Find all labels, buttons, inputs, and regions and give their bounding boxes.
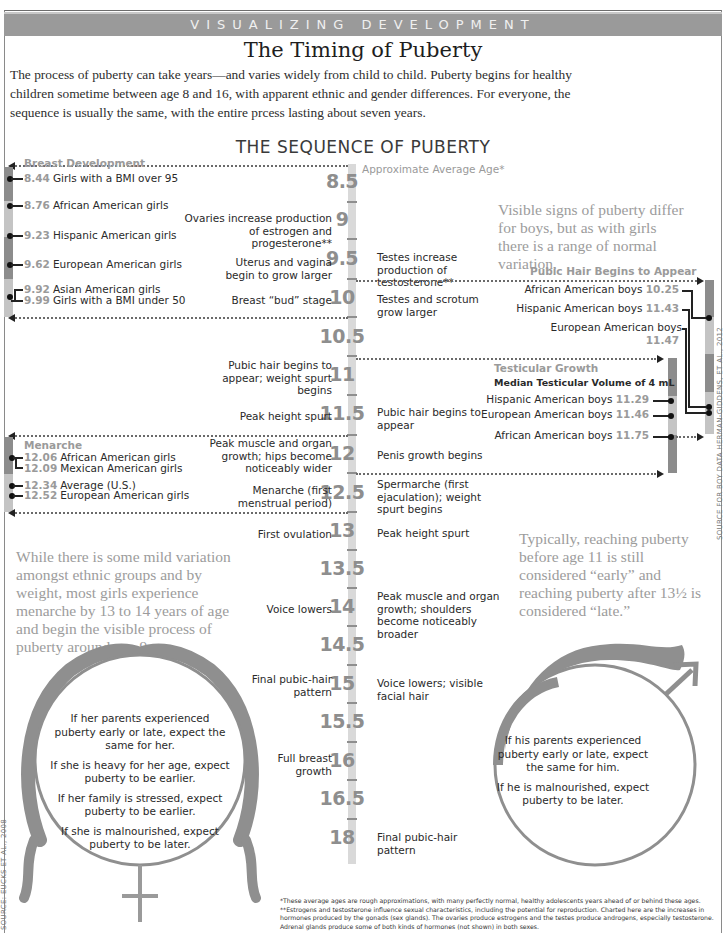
connector [11, 235, 23, 237]
boy-event-height-spurt: Peak height spurt [377, 527, 517, 540]
girl-event-full-breast: Full breast growth [262, 752, 332, 777]
tick-dash [347, 741, 357, 743]
source-boys: SOURCE FOR BOY DATA HERMAN-GIDDENS, ET A… [716, 327, 724, 540]
testicular-row: European American boys 11.46 [481, 408, 652, 420]
boy-event-pubic-hair: Pubic hair begins to appear [377, 406, 487, 431]
menarche-end-line [12, 512, 348, 514]
data-point-dot [668, 398, 674, 404]
menarche-row: 12.52European American girls [24, 489, 189, 501]
connector [691, 317, 707, 319]
axis-label: Approximate Average Age* [362, 163, 504, 175]
male-tip: If he is malnourished, expect puberty to… [488, 781, 658, 808]
testicular-end-line [356, 473, 656, 475]
male-tip: If his parents experienced puberty early… [488, 734, 658, 775]
girl-event-uterus: Uterus and vagina begin to grow larger [212, 256, 332, 281]
testicular-label: Testicular Growth [494, 362, 598, 374]
tick-dash [347, 355, 357, 357]
connector [653, 400, 669, 402]
breast-row: 9.23Hispanic American girls [24, 229, 177, 241]
female-tip: If she is heavy for her age, expect pube… [50, 759, 230, 786]
footnote-2: **Estrogens and testosterone influence s… [280, 906, 720, 932]
pubic-hair-bar-segment [705, 280, 714, 317]
tick-dash [347, 702, 357, 704]
tick-15-5: 15.5 [312, 710, 372, 732]
girl-event-pubic-hair: Pubic hair begins to appear; weight spur… [222, 359, 332, 397]
tick-16-5: 16.5 [312, 787, 372, 809]
connector [685, 412, 706, 414]
tick-dash [347, 818, 357, 820]
tick-10-5: 10.5 [312, 325, 372, 347]
testicular-sublabel: Median Testicular Volume of 4 mL [494, 377, 674, 388]
connector [688, 309, 690, 407]
tick-dash [347, 779, 357, 781]
data-point-dot [706, 315, 712, 321]
tick-14-5: 14.5 [312, 633, 372, 655]
boy-event-testes-testosterone: Testes increase production of testostero… [377, 251, 487, 289]
pubic-hair-bar-segment [705, 354, 714, 392]
pubic-hair-boys-row: European American boys [551, 321, 682, 333]
pubic-hair-bar-segment [705, 317, 714, 354]
connector [13, 485, 23, 487]
breast-row: 9.99Girls with a BMI under 50 [24, 294, 186, 306]
sequence-title: THE SEQUENCE OF PUBERTY [0, 137, 726, 157]
pubic-hair-boys-row: Hispanic American boys 11.43 [516, 302, 682, 314]
connector [15, 457, 17, 467]
breast-dev-end-line [12, 317, 348, 319]
connector [14, 289, 23, 291]
breast-bar-segment [4, 237, 13, 279]
data-point-dot [668, 413, 674, 419]
callout-early-late: Typically, reaching puberty before age 1… [519, 530, 709, 620]
girl-event-ovulation: First ovulation [172, 528, 332, 541]
female-tip: If she is malnourished, expect puberty t… [50, 825, 230, 852]
connector [11, 178, 23, 180]
female-tip: If her family is stressed, expect pubert… [50, 792, 230, 819]
arrow-right-icon [657, 355, 664, 363]
girl-event-menarche: Menarche (first menstrual period) [222, 484, 332, 509]
menarche-row: 12.09Mexican American girls [24, 462, 182, 474]
breast-row: 8.76African American girls [24, 199, 168, 211]
testicular-row: Hispanic American boys 11.29 [486, 393, 652, 405]
menarche-label: Menarche [24, 439, 82, 451]
arrow-right-icon [697, 277, 704, 285]
tick-13-5: 13.5 [312, 557, 372, 579]
arrow-left-icon [8, 509, 15, 517]
arrow-left-icon [8, 314, 15, 322]
tick-dash [347, 201, 357, 203]
tick-dash [347, 434, 357, 436]
pubic-hair-boys-row: African American boys 10.25 [524, 283, 682, 295]
tick-dash [347, 549, 357, 551]
arrow-right-icon [657, 470, 664, 478]
boy-event-penis-growth: Penis growth begins [377, 449, 527, 462]
breast-bar-segment [4, 167, 13, 201]
tick-dash [347, 587, 357, 589]
male-tips: If his parents experienced puberty early… [488, 734, 658, 814]
tick-dash [347, 511, 357, 513]
tick-dash [347, 238, 357, 240]
connector [13, 495, 23, 497]
female-tips: If her parents experienced puberty early… [50, 712, 230, 858]
testicular-start-line [356, 358, 656, 360]
breast-row: 8.44Girls with a BMI over 95 [24, 172, 178, 184]
connector [11, 300, 23, 302]
footnote-1: *These average ages are rough approximat… [280, 897, 720, 906]
testicular-link-line [676, 436, 696, 438]
connector [653, 415, 669, 417]
tick-dash [347, 316, 357, 318]
boy-event-testes-grow: Testes and scrotum grow larger [377, 293, 487, 318]
banner-text: VISUALIZING DEVELOPMENT [4, 17, 722, 32]
intro-paragraph: The process of puberty can take years—an… [10, 65, 610, 122]
girl-event-height-spurt: Peak height spurt [172, 410, 332, 423]
connector [691, 290, 693, 318]
data-point-dot [668, 434, 674, 440]
connector [13, 457, 23, 459]
tick-dash [347, 625, 357, 627]
boy-event-spermarche: Spermarche (first ejaculation); weight s… [377, 478, 487, 516]
section-banner: VISUALIZING DEVELOPMENT [4, 12, 722, 36]
female-tip: If her parents experienced puberty early… [50, 712, 230, 753]
breast-row: 9.62European American girls [24, 258, 182, 270]
girl-event-breast-bud: Breast “bud” stage [172, 294, 332, 307]
footnotes: *These average ages are rough approximat… [280, 897, 720, 931]
connector [15, 467, 23, 469]
arrow-right-icon [697, 433, 704, 441]
page-title: The Timing of Puberty [0, 38, 726, 62]
